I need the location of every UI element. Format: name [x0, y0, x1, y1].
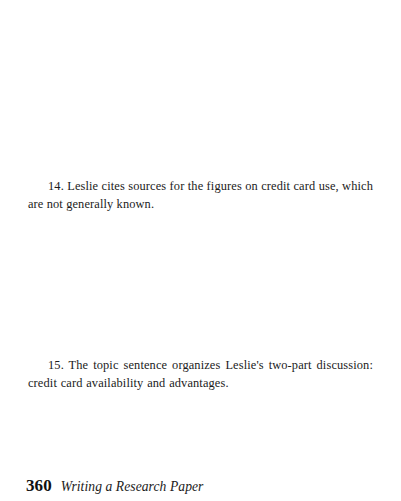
page-footer: 360 Writing a Research Paper	[26, 476, 203, 496]
numbered-note-15: 15. The topic sentence organizes Leslie'…	[28, 357, 373, 392]
numbered-note-14: 14. Leslie cites sources for the figures…	[28, 178, 373, 213]
document-page: 14. Leslie cites sources for the figures…	[0, 0, 401, 501]
page-number: 360	[26, 476, 52, 496]
running-head-title: Writing a Research Paper	[61, 479, 204, 495]
